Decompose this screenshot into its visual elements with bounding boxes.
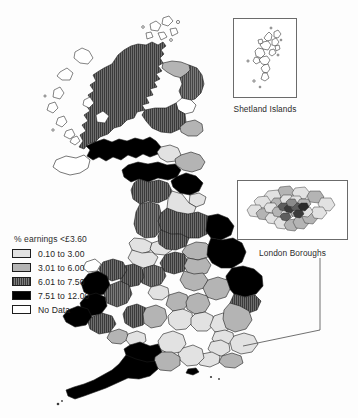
legend-title: % earnings <£3.60 xyxy=(14,234,89,244)
region-norfolk xyxy=(226,266,263,297)
region-cumbria xyxy=(131,179,172,204)
legend-swatch-2 xyxy=(12,263,31,273)
map-legend: % earnings <£3.60 0.10 to 3.00 3.01 to 6… xyxy=(12,234,89,317)
uk-choropleth-figure: % earnings <£3.60 0.10 to 3.00 3.01 to 6… xyxy=(0,0,358,418)
shetland-inset-map xyxy=(234,19,296,97)
region-carmarthenshire xyxy=(88,313,116,334)
legend-row-2: 3.01 to 6.00 xyxy=(12,261,89,274)
legend-label-5: No Data xyxy=(38,305,70,315)
legend-row-5: No Data xyxy=(12,303,89,316)
region-lancashire xyxy=(134,202,161,238)
legend-swatch-4 xyxy=(12,291,31,301)
legend-label-3: 6.01 to 7.50 xyxy=(38,277,85,287)
legend-row-4: 7.51 to 12.00 xyxy=(12,289,89,302)
map-regions xyxy=(44,16,263,405)
legend-swatch-3 xyxy=(12,277,31,287)
legend-row-3: 6.01 to 7.50 xyxy=(12,275,89,288)
legend-swatch-1 xyxy=(12,249,31,259)
region-northamptonshire xyxy=(186,293,210,314)
region-devon-cornwall xyxy=(66,355,158,399)
london-borough-shapes xyxy=(247,186,335,231)
region-argyll-glasgow xyxy=(86,137,161,161)
london-boroughs-inset-map xyxy=(238,181,347,239)
legend-label-1: 0.10 to 3.00 xyxy=(38,249,85,259)
region-dumfries-galloway xyxy=(122,162,181,182)
legend-label-4: 7.51 to 12.00 xyxy=(38,291,89,301)
shetland-inset-box xyxy=(233,18,297,98)
legend-row-1: 0.10 to 3.00 xyxy=(12,247,89,260)
london-inset-box xyxy=(237,180,348,240)
region-buckinghamshire xyxy=(191,312,214,331)
region-gloucestershire xyxy=(143,305,167,328)
shetland-islands-shapes xyxy=(247,27,282,88)
region-west-midlands xyxy=(148,285,169,300)
legend-label-2: 3.01 to 6.00 xyxy=(38,263,85,273)
region-warwickshire xyxy=(166,292,189,311)
region-oxfordshire xyxy=(168,309,193,330)
region-isle-of-wight xyxy=(186,368,199,375)
legend-swatch-5 xyxy=(12,305,31,315)
region-northern-ireland xyxy=(53,155,90,175)
london-inset-caption: London Boroughs xyxy=(240,248,345,258)
region-east-riding xyxy=(206,214,234,240)
shetland-inset-caption: Shetland Islands xyxy=(222,104,308,114)
